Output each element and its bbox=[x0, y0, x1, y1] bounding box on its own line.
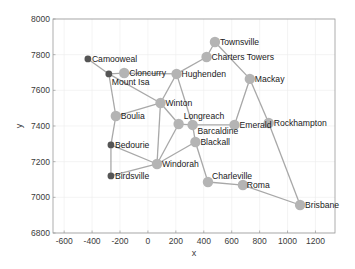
x-axis-label: x bbox=[192, 248, 197, 258]
node-label: Charters Towers bbox=[212, 52, 274, 62]
graph-node bbox=[108, 173, 115, 180]
graph-edge bbox=[234, 79, 249, 125]
graph-edge bbox=[250, 79, 269, 123]
graph-node bbox=[295, 200, 305, 210]
y-tick-label: 7000 bbox=[31, 192, 50, 202]
x-tick-label: 1000 bbox=[278, 236, 297, 246]
graph-node bbox=[171, 69, 181, 79]
graph-node bbox=[210, 37, 220, 47]
graph-node bbox=[111, 111, 121, 121]
x-tick-label: 400 bbox=[197, 236, 211, 246]
x-tick-label: 0 bbox=[146, 236, 151, 246]
network-graph-chart: -600-400-2000200400600800100012006800700… bbox=[0, 0, 355, 269]
node-label: Rockhampton bbox=[274, 118, 327, 128]
node-label: Mackay bbox=[255, 74, 285, 84]
y-tick-label: 7800 bbox=[31, 50, 50, 60]
graph-node bbox=[173, 119, 183, 129]
graph-node bbox=[201, 52, 211, 62]
node-label: Mount Isa bbox=[112, 77, 150, 87]
node-label: Hughenden bbox=[182, 69, 227, 79]
y-tick-label: 7600 bbox=[31, 85, 50, 95]
y-tick-label: 7400 bbox=[31, 121, 50, 131]
node-label: Blackall bbox=[200, 137, 230, 147]
x-tick-label: 600 bbox=[225, 236, 239, 246]
node-label: Brisbane bbox=[305, 200, 339, 210]
graph-edge bbox=[269, 123, 300, 205]
node-label: Bedourie bbox=[115, 140, 150, 150]
node-label: Winton bbox=[165, 98, 192, 108]
graph-node bbox=[85, 56, 92, 63]
x-tick-label: 200 bbox=[169, 236, 183, 246]
graph-node bbox=[245, 74, 255, 84]
x-tick-label: 1200 bbox=[306, 236, 325, 246]
graph-node bbox=[187, 120, 197, 130]
y-axis-label: y bbox=[14, 123, 24, 128]
node-label: Camooweal bbox=[92, 54, 137, 64]
node-label: Birdsville bbox=[115, 171, 150, 181]
node-label: Cloncurry bbox=[129, 68, 166, 78]
y-tick-label: 7200 bbox=[31, 157, 50, 167]
y-tick-label: 8000 bbox=[31, 14, 50, 24]
graph-node bbox=[190, 137, 200, 147]
graph-node bbox=[108, 142, 115, 149]
node-label: Barcaldine bbox=[198, 126, 239, 136]
node-label: Townsville bbox=[220, 37, 259, 47]
node-label: Boulia bbox=[121, 111, 145, 121]
node-labels: CamoowealMount IsaCloncurryHughendenChar… bbox=[92, 37, 339, 210]
node-label: Roma bbox=[247, 180, 270, 190]
x-tick-label: 800 bbox=[253, 236, 267, 246]
x-tick-label: -200 bbox=[112, 236, 129, 246]
node-label: Longreach bbox=[184, 111, 225, 121]
graph-node bbox=[155, 98, 165, 108]
axis-ticks: -600-400-2000200400600800100012006800700… bbox=[31, 14, 325, 246]
x-tick-label: -400 bbox=[84, 236, 101, 246]
graph-edge bbox=[157, 103, 160, 164]
node-label: Windorah bbox=[162, 159, 199, 169]
y-tick-label: 6800 bbox=[31, 228, 50, 238]
graph-edge bbox=[208, 182, 243, 185]
x-tick-label: -600 bbox=[56, 236, 73, 246]
graph-node bbox=[152, 159, 162, 169]
node-label: Emerald bbox=[239, 120, 271, 130]
